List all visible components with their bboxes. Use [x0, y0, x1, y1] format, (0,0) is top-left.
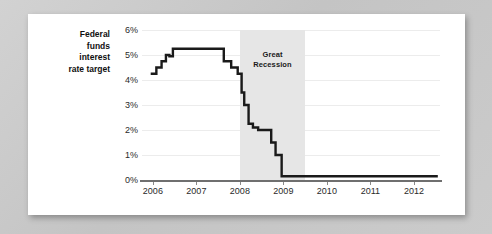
- y-axis-tick-label: 2%: [114, 125, 138, 135]
- x-axis-tick: [327, 182, 328, 185]
- y-axis-tick-label: 0%: [114, 175, 138, 185]
- x-axis-tick: [283, 182, 284, 185]
- y-axis-tick-label: 1%: [114, 150, 138, 160]
- x-axis-tick-label: 2008: [220, 186, 260, 196]
- x-axis-tick-label: 2011: [350, 186, 390, 196]
- y-axis-tick-label: 3%: [114, 100, 138, 110]
- y-axis-tick-label: 6%: [114, 25, 138, 35]
- x-axis-tick: [414, 182, 415, 185]
- x-axis-tick-label: 2009: [263, 186, 303, 196]
- figure-card: Federal funds interest rate target 0%1%2…: [28, 14, 465, 215]
- line-chart: Federal funds interest rate target 0%1%2…: [28, 14, 465, 215]
- x-axis-tick: [196, 182, 197, 185]
- y-axis-tick-label: 4%: [114, 75, 138, 85]
- x-axis-tick-label: 2010: [307, 186, 347, 196]
- y-axis-tick-label: 5%: [114, 50, 138, 60]
- x-axis-tick-label: 2006: [133, 186, 173, 196]
- x-axis-tick: [153, 182, 154, 185]
- x-axis-tick-label: 2012: [394, 186, 434, 196]
- series-label-line-2: funds: [36, 41, 110, 53]
- series-line-federal-funds-rate: [142, 30, 440, 180]
- series-axis-label: Federal funds interest rate target: [36, 29, 110, 75]
- series-label-line-1: Federal: [36, 29, 110, 41]
- series-label-line-3: interest: [36, 52, 110, 64]
- x-axis-tick: [370, 182, 371, 185]
- plot-region: GreatRecession: [142, 30, 440, 180]
- series-label-line-4: rate target: [36, 64, 110, 76]
- x-axis-tick-label: 2007: [176, 186, 216, 196]
- x-axis-tick: [240, 182, 241, 185]
- x-axis-line: [140, 180, 442, 182]
